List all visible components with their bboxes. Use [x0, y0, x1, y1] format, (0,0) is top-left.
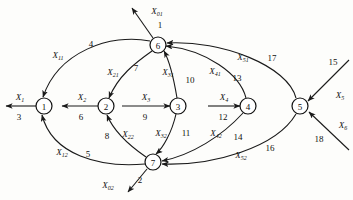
edge-e16-var-label: X52	[234, 150, 247, 161]
edge-e17-num-label: 17	[268, 53, 278, 63]
node-7: 7	[145, 154, 161, 170]
edge-e11-num-label: 11	[182, 128, 191, 138]
edge-e6-num-label: 6	[79, 112, 84, 122]
edge-e1-var-label: X01	[150, 6, 163, 17]
node-1: 1	[36, 98, 52, 114]
edge-e17-var-label: X51	[236, 52, 249, 63]
edge-e10-var-label: X31	[161, 67, 174, 78]
edge-e18-in-to-5	[309, 112, 349, 150]
edge-e13-var-label: X41	[208, 66, 221, 77]
edge-e12-num-label: 12	[219, 112, 228, 122]
edge-e3-var-label: X1	[15, 92, 25, 103]
node-6: 6	[150, 37, 166, 53]
edge-e15-num-label: 15	[329, 57, 339, 67]
node-3-label: 3	[176, 102, 181, 112]
edge-e7-num-label: 7	[134, 63, 139, 73]
edge-e17-5-to-6	[167, 43, 296, 98]
node-4: 4	[240, 98, 256, 114]
edge-e18-num-label: 18	[315, 134, 325, 144]
edge-e11-var-label: X32	[154, 128, 167, 139]
edge-e14-num-label: 14	[234, 132, 244, 142]
edge-e3-num-label: 3	[17, 112, 22, 122]
node-5: 5	[292, 98, 308, 114]
edge-e5-num-label: 5	[86, 149, 91, 159]
edge-e4-num-label: 4	[89, 39, 94, 49]
edge-e16-5-to-7	[162, 114, 296, 164]
node-5-label: 5	[298, 102, 303, 112]
signal-flow-graph: 1 2 3 4 5 6 7 X01 1 X02	[0, 0, 353, 200]
node-7-label: 7	[151, 158, 156, 168]
edge-e7-var-label: X21	[106, 67, 119, 78]
edge-e4-var-label: X11	[51, 50, 63, 61]
edge-e12-var-label: X4	[219, 92, 229, 103]
node-6-label: 6	[156, 41, 161, 51]
edge-e2-var-label: X02	[101, 180, 114, 191]
edge-e2-num-label: 2	[138, 175, 143, 185]
edge-e13-4-to-6	[166, 46, 246, 98]
edge-e16-num-label: 16	[266, 143, 276, 153]
node-2: 2	[98, 98, 114, 114]
edge-e15-var-label: X5	[335, 90, 345, 101]
node-2-label: 2	[104, 102, 109, 112]
edge-e8-var-label: X22	[121, 129, 134, 140]
node-3: 3	[170, 98, 186, 114]
edge-e14-var-label: X42	[209, 128, 222, 139]
edge-e1-6-to-out-top	[132, 8, 153, 38]
edge-e9-var-label: X3	[141, 92, 151, 103]
edge-e10-num-label: 10	[186, 75, 196, 85]
edge-e13-num-label: 13	[233, 73, 243, 83]
node-1-label: 1	[42, 102, 47, 112]
edge-e6-var-label: X2	[77, 92, 87, 103]
node-4-label: 4	[246, 102, 251, 112]
edge-e9-num-label: 9	[143, 112, 148, 122]
edge-e18-var-label: X6	[338, 120, 348, 131]
edge-e1-num-label: 1	[158, 20, 163, 30]
edge-e5-7-to-1	[42, 115, 145, 165]
figure-canvas: 1 2 3 4 5 6 7 X01 1 X02	[0, 0, 353, 200]
edge-e8-num-label: 8	[105, 131, 110, 141]
